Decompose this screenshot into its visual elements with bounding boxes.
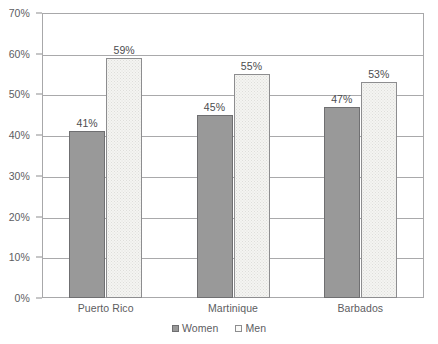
legend-item-women[interactable]: Women <box>172 322 219 334</box>
y-axis-tick-label: 40% <box>9 129 30 141</box>
y-axis-tick-label: 70% <box>9 7 30 19</box>
x-axis: Puerto RicoMartiniqueBarbados <box>42 300 424 318</box>
y-axis-tick-label: 30% <box>9 170 30 182</box>
bar-men-puerto-rico[interactable] <box>106 58 142 298</box>
y-axis-tick-label: 20% <box>9 211 30 223</box>
bar-men-barbados[interactable] <box>361 82 397 298</box>
bar-women-barbados[interactable] <box>324 107 360 298</box>
legend-swatch-icon <box>235 325 242 332</box>
x-axis-tick-label: Martinique <box>208 302 258 314</box>
bar-chart: 0%10%20%30%40%50%60%70% 41%59%45%55%47%5… <box>0 0 438 344</box>
legend-label: Women <box>182 322 219 334</box>
legend-item-men[interactable]: Men <box>235 322 266 334</box>
legend-swatch-icon <box>172 325 179 332</box>
chart-legend: WomenMen <box>0 322 438 334</box>
x-axis-tick-label: Barbados <box>337 302 383 314</box>
y-axis-tick-label: 60% <box>9 48 30 60</box>
bar-value-label: 53% <box>368 68 389 82</box>
y-axis-tick-label: 10% <box>9 251 30 263</box>
bar-men-martinique[interactable] <box>234 74 270 298</box>
legend-label: Men <box>245 322 266 334</box>
y-axis-tick-label: 0% <box>15 292 30 304</box>
bar-value-label: 59% <box>113 44 134 58</box>
bars-layer: 41%59%45%55%47%53% <box>42 13 424 298</box>
bar-value-label: 41% <box>76 117 97 131</box>
bar-value-label: 45% <box>204 101 225 115</box>
y-axis: 0%10%20%30%40%50%60%70% <box>0 13 36 298</box>
bar-value-label: 47% <box>331 93 352 107</box>
bar-value-label: 55% <box>241 60 262 74</box>
bar-women-puerto-rico[interactable] <box>69 131 105 298</box>
y-axis-tick-label: 50% <box>9 88 30 100</box>
bar-women-martinique[interactable] <box>197 115 233 298</box>
x-axis-tick-label: Puerto Rico <box>78 302 134 314</box>
